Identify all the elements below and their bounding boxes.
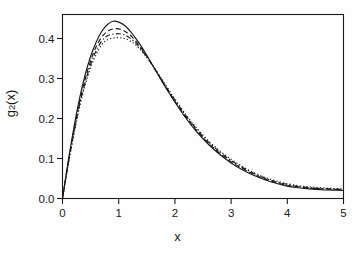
x-tick-label-0: 0 (59, 207, 65, 219)
x-tick-label-4: 4 (284, 207, 290, 219)
y-tick-label-0: 0.0 (17, 193, 55, 205)
y-tick-label-4: 0.4 (17, 33, 55, 45)
x-tick-label-3: 3 (228, 207, 234, 219)
x-tick-label-5: 5 (340, 207, 346, 219)
y-axis-title-subscript: 2 (7, 105, 17, 110)
curve-dotdash (63, 34, 344, 199)
x-axis-title: x (0, 229, 355, 244)
y-axis-title: g2(x) (3, 72, 18, 136)
y-axis-title-tail: (x) (3, 90, 18, 105)
x-tick-label-2: 2 (172, 207, 178, 219)
y-tick-label-2: 0.2 (17, 113, 55, 125)
curve-dashed (63, 29, 344, 199)
y-tick-label-1: 0.1 (17, 153, 55, 165)
y-tick-label-3: 0.3 (17, 73, 55, 85)
chart-root: g2(x) x 0123450.00.10.20.30.4 (0, 0, 355, 256)
x-tick-label-1: 1 (115, 207, 121, 219)
curve-dotted (63, 38, 344, 199)
y-axis-title-base: g (3, 110, 18, 117)
curve-solid (63, 21, 344, 198)
